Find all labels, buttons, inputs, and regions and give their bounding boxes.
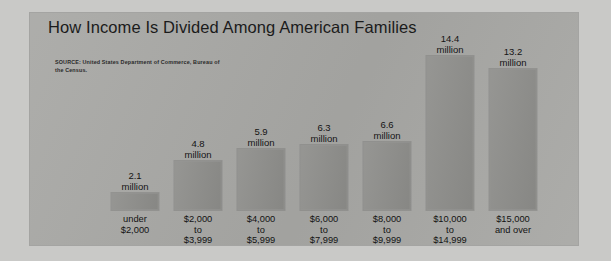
- bar-value-label: 13.2 million: [482, 46, 544, 68]
- bar-value-label: 5.9 million: [230, 126, 292, 148]
- bar: [427, 56, 474, 210]
- plot-area: 2.1 million under $2,000 4.8 million $2,…: [30, 13, 578, 245]
- bar-value-label: 6.3 million: [293, 122, 355, 144]
- bar: [112, 193, 159, 210]
- bar-value-label: 14.4 million: [419, 33, 481, 55]
- bar: [364, 142, 411, 210]
- bar: [175, 161, 222, 210]
- chart-screenshot: How Income Is Divided Among American Fam…: [0, 0, 611, 261]
- bar-value-label: 4.8 million: [167, 138, 229, 160]
- chart-panel: How Income Is Divided Among American Fam…: [30, 13, 578, 245]
- bar-category-label: $15,000 and over: [476, 214, 550, 235]
- bar: [238, 149, 285, 210]
- bar-value-label: 6.6 million: [356, 119, 418, 141]
- bar: [301, 145, 348, 210]
- bar: [490, 69, 537, 210]
- bar-value-label: 2.1 million: [104, 170, 166, 192]
